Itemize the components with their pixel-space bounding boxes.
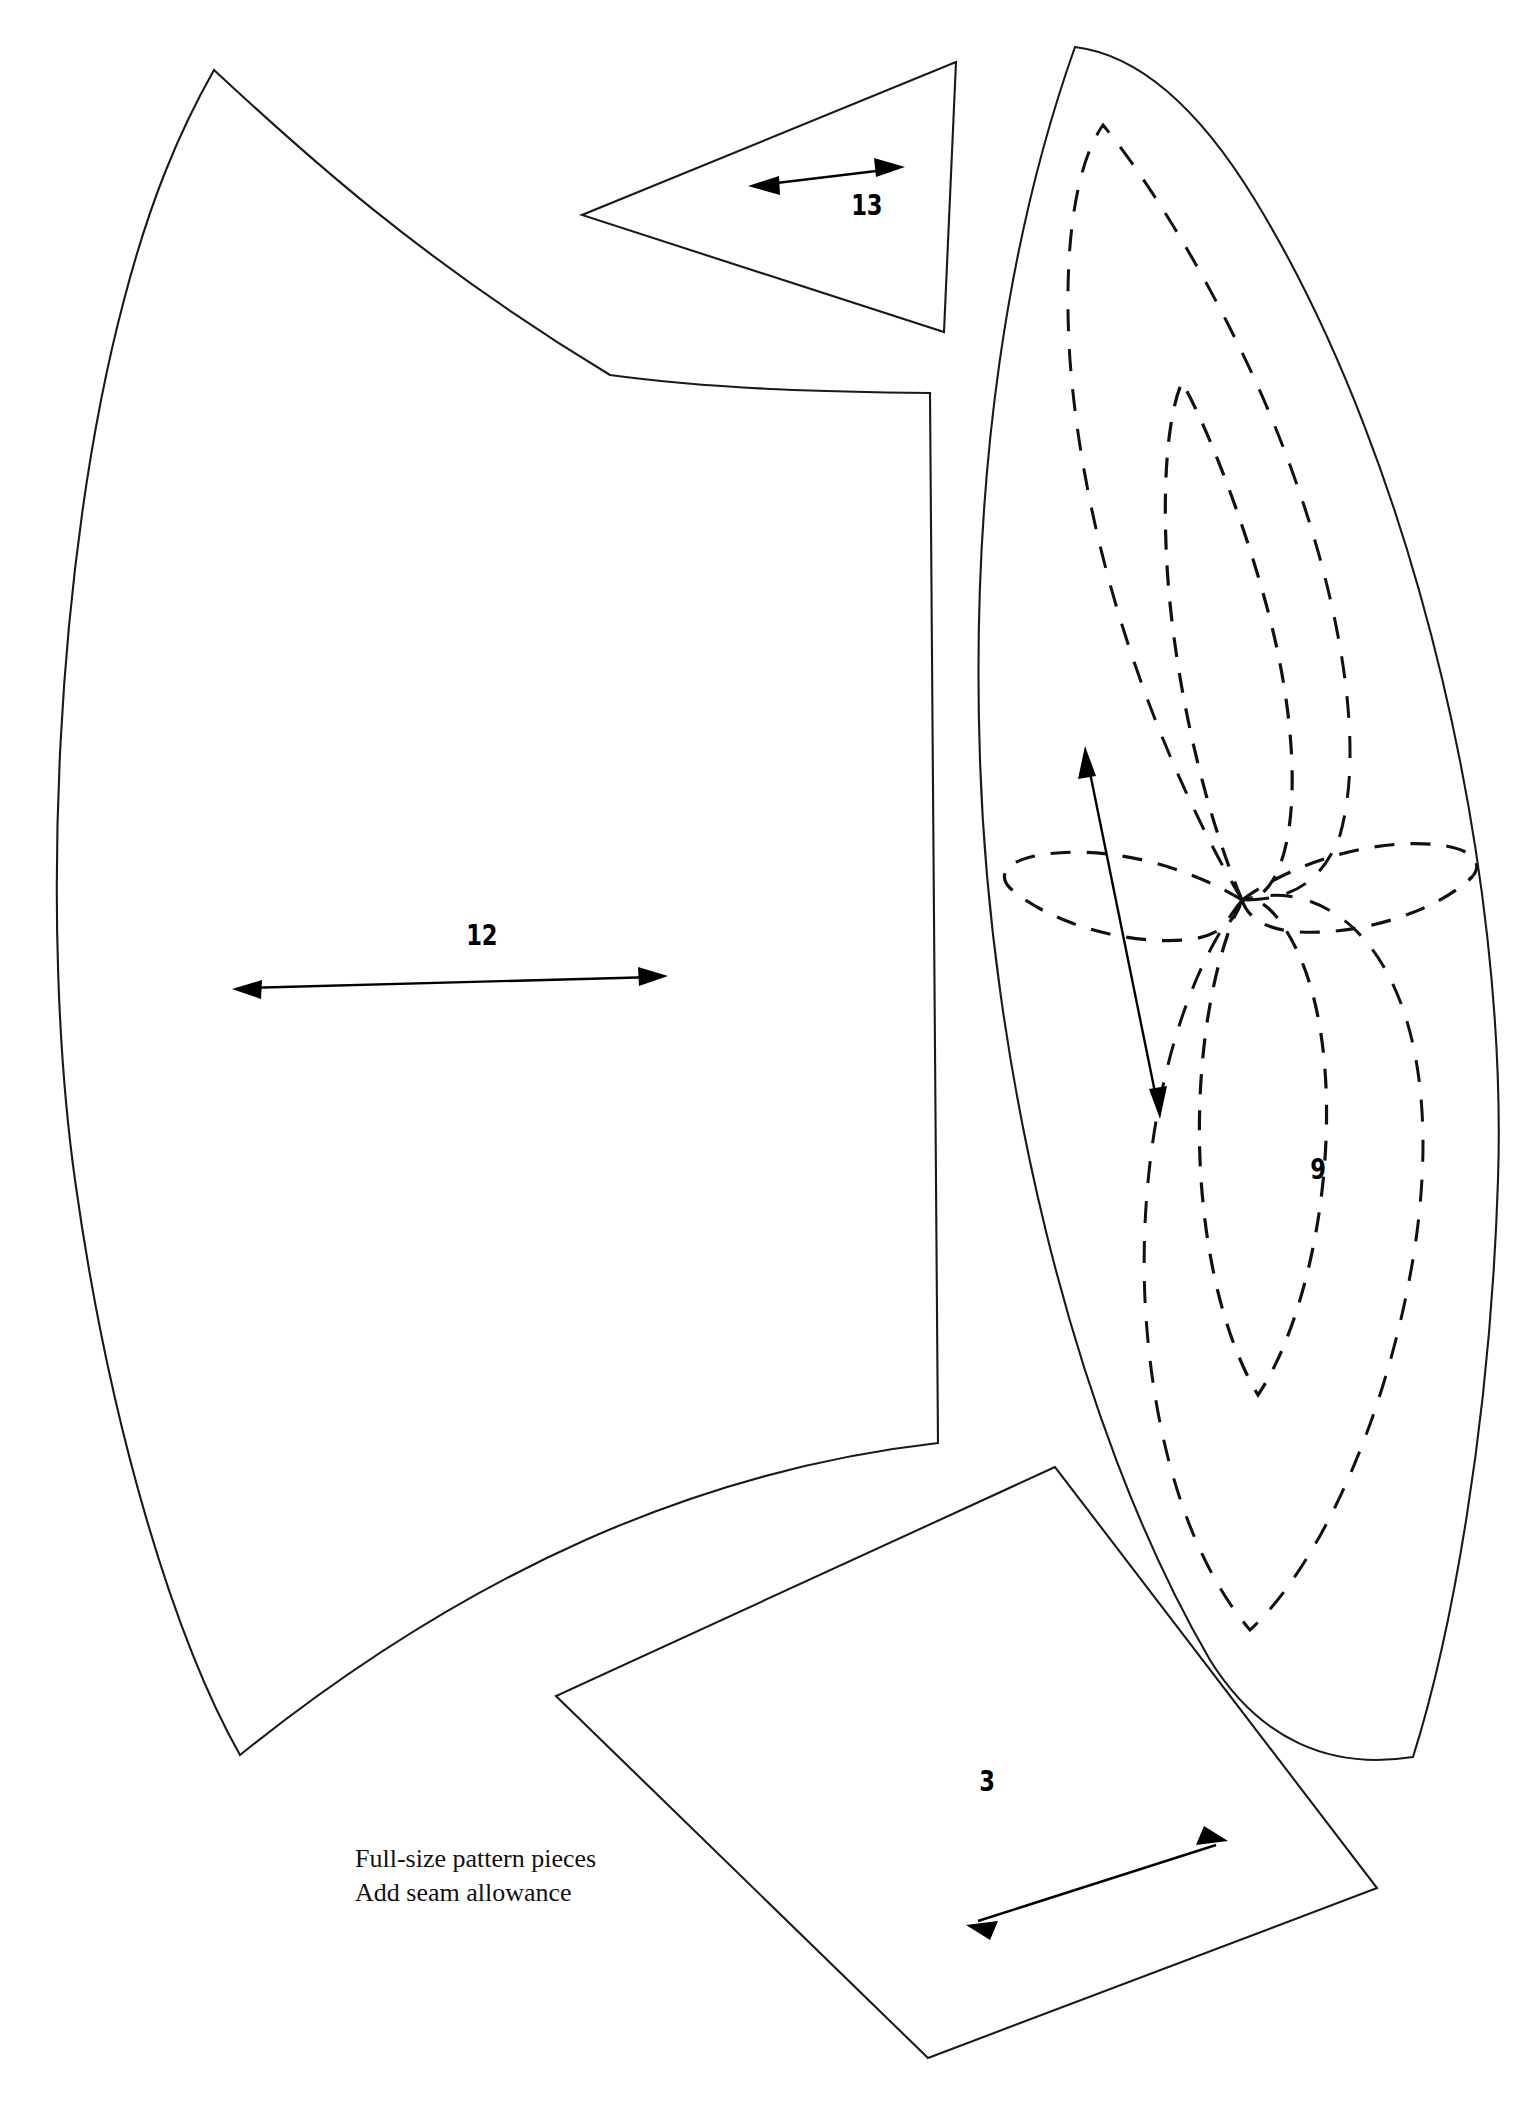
piece-label-3: 3: [979, 1767, 994, 1796]
pattern-sheet: 12 13 9 3 Full-size pattern pieces Add s…: [0, 0, 1538, 2107]
pattern-drawing: [0, 0, 1538, 2107]
piece-outline-12[interactable]: [57, 70, 938, 1755]
caption-line-1: Full-size pattern pieces: [355, 1842, 596, 1876]
caption-block: Full-size pattern pieces Add seam allowa…: [355, 1842, 596, 1911]
piece-label-12: 12: [466, 921, 497, 950]
piece-label-13: 13: [851, 191, 882, 220]
piece-label-9: 9: [1310, 1155, 1325, 1184]
caption-line-2: Add seam allowance: [355, 1876, 596, 1910]
piece-outline-13[interactable]: [582, 62, 956, 332]
